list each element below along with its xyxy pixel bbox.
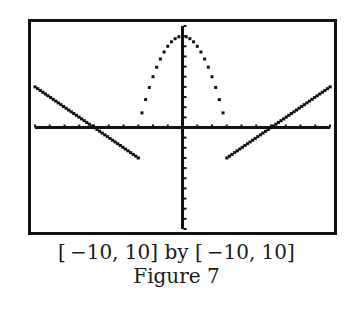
graph-dot	[140, 111, 143, 114]
y-tick	[184, 198, 187, 200]
y-tick	[184, 76, 187, 78]
figure-caption: Figure 7	[0, 264, 353, 288]
x-tick	[123, 125, 125, 128]
y-tick	[184, 137, 187, 139]
x-tick	[300, 125, 302, 128]
x-tick	[196, 125, 198, 128]
y-tick	[184, 25, 187, 27]
y-tick	[184, 147, 187, 149]
y-tick	[184, 106, 187, 108]
x-tick	[108, 125, 110, 128]
x-tick	[78, 125, 80, 128]
graph-dot	[159, 57, 162, 60]
y-tick	[184, 45, 187, 47]
x-tick	[241, 125, 243, 128]
graph-dot	[207, 66, 210, 69]
graph-dot	[185, 35, 188, 38]
graph-dot	[214, 86, 217, 89]
window-range-caption: [ −10, 10] by [ −10, 10]	[0, 240, 353, 264]
graph-dot	[177, 35, 180, 38]
y-tick	[184, 208, 187, 210]
graph-dot	[137, 126, 140, 129]
y-tick	[184, 177, 187, 179]
y-tick	[184, 116, 187, 118]
graph-dot	[166, 45, 169, 48]
x-tick	[314, 125, 316, 128]
x-tick	[49, 125, 51, 128]
graph-dot	[199, 50, 202, 53]
y-tick	[184, 218, 187, 220]
x-tick	[167, 125, 169, 128]
calculator-graph	[0, 0, 353, 240]
x-tick	[211, 125, 213, 128]
graph-dot	[188, 37, 191, 40]
graph-dot	[203, 57, 206, 60]
y-tick	[184, 228, 187, 230]
graph-dot	[152, 75, 155, 78]
graph-dot	[192, 40, 195, 43]
x-tick	[34, 125, 36, 128]
y-tick	[184, 66, 187, 68]
x-tick	[64, 125, 66, 128]
graph-dot	[148, 86, 151, 89]
right-line-pixel	[329, 85, 332, 88]
graph-dot	[174, 37, 177, 40]
graph-dot	[155, 66, 158, 69]
x-tick	[152, 125, 154, 128]
y-tick	[184, 55, 187, 57]
y-tick	[184, 157, 187, 159]
graph-dot	[163, 50, 166, 53]
x-tick	[285, 125, 287, 128]
graph-dot	[218, 98, 221, 101]
graph-dot	[144, 98, 147, 101]
y-tick	[184, 86, 187, 88]
graph-dot	[222, 111, 225, 114]
graph-dot	[170, 40, 173, 43]
graph-dot	[225, 126, 228, 129]
graph-dot	[181, 35, 184, 38]
x-tick	[329, 125, 331, 128]
x-tick	[255, 125, 257, 128]
y-tick	[184, 96, 187, 98]
y-tick	[184, 187, 187, 189]
graph-dot	[196, 45, 199, 48]
figure: [ −10, 10] by [ −10, 10] Figure 7	[0, 0, 353, 319]
graph-dot	[211, 75, 214, 78]
left-line-pixel	[137, 156, 140, 159]
y-tick	[184, 167, 187, 169]
